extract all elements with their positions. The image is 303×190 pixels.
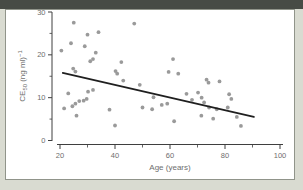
data-point	[86, 33, 90, 37]
x-tick-label: 40	[111, 151, 119, 160]
data-point	[185, 92, 189, 96]
data-point	[150, 107, 154, 111]
data-point	[227, 92, 231, 96]
data-point	[74, 70, 78, 74]
data-point	[75, 114, 79, 118]
data-point	[235, 115, 239, 119]
data-point	[97, 30, 101, 34]
scatter-chart: 010203020406080100Age (years)CE50 (ng ml…	[0, 0, 303, 190]
data-point	[211, 117, 215, 121]
screenshot-root: 010203020406080100Age (years)CE50 (ng ml…	[0, 0, 303, 190]
data-point	[70, 104, 74, 108]
data-point	[207, 81, 211, 85]
y-tick-label: 30	[37, 8, 45, 17]
data-point	[115, 72, 119, 76]
data-point	[190, 98, 194, 102]
data-point	[77, 99, 81, 103]
data-point	[176, 72, 180, 76]
y-tick-label: 0	[41, 136, 45, 145]
data-point	[119, 60, 123, 64]
data-point	[83, 44, 87, 48]
data-point	[172, 119, 176, 123]
data-point	[229, 97, 233, 101]
data-point	[167, 70, 171, 74]
data-point	[165, 102, 169, 106]
data-point	[226, 106, 230, 110]
data-point	[91, 88, 95, 92]
data-point	[121, 79, 125, 83]
x-axis-title: Age (years)	[149, 163, 191, 172]
data-point	[200, 96, 204, 100]
y-axis-title: CE50 (ng ml)−1	[17, 50, 27, 101]
data-point	[108, 108, 112, 112]
data-point	[85, 97, 89, 101]
data-point	[62, 106, 66, 110]
trend-line	[63, 73, 254, 117]
data-point	[160, 103, 164, 107]
data-point	[171, 57, 175, 61]
data-point	[138, 83, 142, 87]
y-tick-label: 20	[37, 50, 45, 59]
y-tick-label: 10	[37, 93, 45, 102]
data-point	[66, 91, 70, 95]
data-point	[202, 100, 206, 104]
data-point	[113, 124, 117, 128]
data-point	[91, 57, 95, 61]
data-point	[86, 90, 90, 94]
data-point	[218, 79, 222, 83]
x-tick-label: 100	[274, 151, 287, 160]
data-point	[59, 49, 63, 53]
data-point	[141, 106, 145, 110]
data-point	[196, 91, 200, 95]
data-point	[94, 51, 98, 55]
data-point	[239, 124, 243, 128]
data-point	[69, 41, 73, 45]
data-point	[152, 95, 156, 99]
data-point	[72, 21, 76, 25]
x-tick-label: 60	[166, 151, 174, 160]
data-point	[132, 22, 136, 26]
data-point	[199, 114, 203, 118]
x-tick-label: 80	[221, 151, 229, 160]
x-tick-label: 20	[56, 151, 64, 160]
data-point	[74, 102, 78, 106]
